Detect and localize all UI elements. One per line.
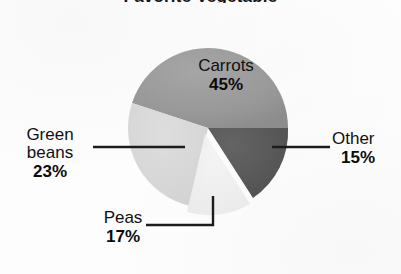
slice-label-carrots-value: 45%: [176, 76, 276, 94]
slice-label-peas: Peas 17%: [92, 209, 154, 246]
slice-label-peas-name: Peas: [92, 209, 154, 227]
slice-label-other-value: 15%: [332, 149, 384, 167]
slice-label-green-beans-line1: Green: [7, 126, 93, 144]
slice-label-peas-value: 17%: [92, 228, 154, 246]
slice-label-green-beans-line2: beans: [7, 144, 93, 162]
slice-label-green-beans-value: 23%: [7, 163, 93, 181]
slice-label-carrots: Carrots 45%: [176, 57, 276, 94]
slice-label-other-name: Other: [332, 130, 384, 148]
chart-page: Favorite Vegetable: [0, 0, 401, 274]
slice-label-other: Other 15%: [332, 130, 384, 167]
slice-label-green-beans: Green beans 23%: [7, 126, 93, 181]
slice-label-carrots-name: Carrots: [176, 57, 276, 75]
